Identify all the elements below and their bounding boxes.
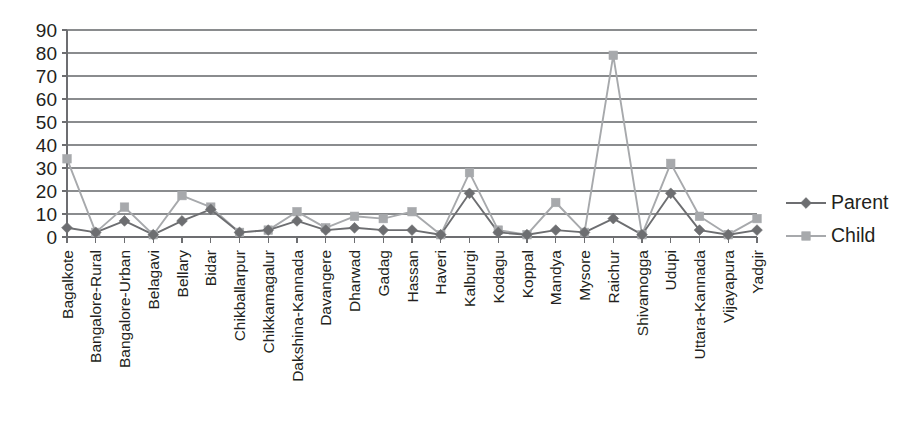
- data-point-parent: [177, 216, 188, 227]
- data-point-child: [350, 212, 359, 221]
- x-tick-label: Hassan: [404, 250, 421, 303]
- data-point-parent: [62, 222, 73, 233]
- x-tick-label: Belagavi: [145, 250, 162, 309]
- y-tick-label: 40: [36, 135, 57, 156]
- x-tick-label: Davangere: [317, 250, 334, 326]
- y-tick-label: 20: [36, 181, 57, 202]
- data-point-child: [609, 51, 618, 60]
- legend-label-parent: Parent: [831, 191, 889, 213]
- legend-marker-parent: [801, 198, 812, 209]
- x-tick-label: Shivamogga: [634, 250, 651, 337]
- data-point-child: [408, 207, 417, 216]
- data-point-child: [695, 212, 704, 221]
- y-tick-label: 90: [36, 20, 57, 41]
- data-point-child: [465, 168, 474, 177]
- x-tick-label: Haveri: [432, 250, 449, 295]
- x-tick-label: Bagalkote: [59, 250, 76, 319]
- y-tick-label: 50: [36, 112, 57, 133]
- x-tick-labels: BagalkoteBangalore-RuralBangalore-UrbanB…: [59, 250, 766, 382]
- x-tick-label: Dharwad: [346, 250, 363, 312]
- x-tick-label: Bangalore-Rural: [87, 250, 104, 363]
- x-tick-label: Dakshina-Kannada: [289, 250, 306, 382]
- legend-marker-child: [802, 232, 811, 241]
- x-tick-label: Mandya: [547, 250, 564, 306]
- y-tick-labels: 9080706050403020100: [36, 20, 57, 248]
- x-tick-label: Koppal: [519, 250, 536, 298]
- x-tick-label: Chikballarpur: [231, 250, 248, 341]
- data-point-child: [667, 159, 676, 168]
- y-tick-label: 70: [36, 66, 57, 87]
- data-point-child: [178, 191, 187, 200]
- x-tick-label: Gadag: [375, 250, 392, 297]
- data-point-parent: [349, 222, 360, 233]
- chart-canvas: 9080706050403020100 BagalkoteBangalore-R…: [0, 0, 907, 441]
- y-tick-label: 10: [36, 204, 57, 225]
- data-point-parent: [752, 225, 763, 236]
- y-tick-label: 60: [36, 89, 57, 110]
- y-tick-label: 30: [36, 158, 57, 179]
- x-tick-label: Vijayapura: [720, 250, 737, 323]
- x-tick-marks: [67, 237, 757, 243]
- data-point-child: [63, 155, 72, 164]
- legend-label-child: Child: [831, 224, 875, 246]
- y-tick-label: 80: [36, 43, 57, 64]
- x-tick-label: Kodagu: [490, 250, 507, 303]
- data-point-child: [120, 203, 129, 212]
- chart-legend: ParentChild: [786, 191, 889, 246]
- data-point-parent: [550, 225, 561, 236]
- y-tick-marks: [62, 30, 67, 237]
- data-point-child: [293, 207, 302, 216]
- x-tick-label: Yadgir: [749, 250, 766, 294]
- x-tick-label: Uttara-Kannada: [691, 250, 708, 360]
- x-tick-label: Mysore: [576, 250, 593, 301]
- x-tick-label: Chikkamagalur: [260, 250, 277, 353]
- data-point-parent: [378, 225, 389, 236]
- y-tick-label: 0: [46, 227, 57, 248]
- data-point-parent: [119, 216, 130, 227]
- data-point-child: [552, 198, 561, 207]
- line-chart: 9080706050403020100 BagalkoteBangalore-R…: [0, 0, 907, 441]
- x-tick-label: Bidar: [202, 250, 219, 286]
- x-tick-label: Raichur: [605, 250, 622, 303]
- x-tick-label: Bangalore-Urban: [116, 250, 133, 368]
- data-point-child: [753, 214, 762, 223]
- data-point-parent: [608, 213, 619, 224]
- x-tick-label: Kalburgi: [461, 250, 478, 307]
- data-point-parent: [292, 216, 303, 227]
- data-point-parent: [407, 225, 418, 236]
- data-point-child: [379, 214, 388, 223]
- x-tick-label: Bellary: [174, 250, 191, 298]
- x-tick-label: Udupi: [662, 250, 679, 291]
